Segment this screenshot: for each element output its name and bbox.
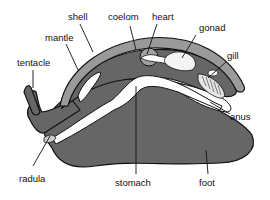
leader-mantle xyxy=(66,44,78,70)
label-tentacle: tentacle xyxy=(17,57,50,68)
label-anus: anus xyxy=(230,111,251,122)
label-heart: heart xyxy=(152,11,174,22)
label-gonad: gonad xyxy=(199,22,225,33)
label-foot: foot xyxy=(199,177,215,188)
mollusc-diagram: shell coelom heart gonad mantle gill ten… xyxy=(0,0,270,200)
label-gill: gill xyxy=(227,50,239,61)
label-radula: radula xyxy=(19,173,46,184)
leader-radula xyxy=(33,136,50,166)
label-mantle: mantle xyxy=(45,32,74,43)
leader-shell xyxy=(80,24,93,52)
label-shell: shell xyxy=(68,11,88,22)
label-coelom: coelom xyxy=(108,11,139,22)
label-stomach: stomach xyxy=(115,177,151,188)
